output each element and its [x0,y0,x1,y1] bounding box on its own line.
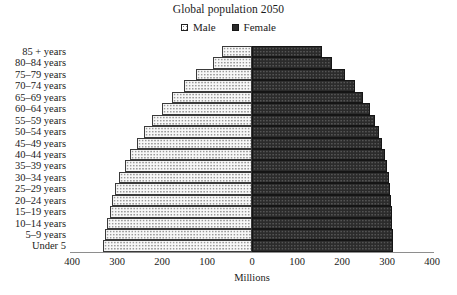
bar-female [252,183,390,194]
pyramid-row [72,206,432,217]
y-axis-label: 15–19 years [0,206,69,217]
bar-male [152,115,252,126]
bar-male [213,57,252,68]
bar-female [252,160,387,171]
bar-male [105,229,252,240]
y-axis-label: 85 + years [0,46,69,57]
y-axis-label: 5–9 years [0,229,69,240]
y-axis-label: 10–14 years [0,218,69,229]
pyramid-row [72,138,432,149]
y-axis-label: 70–74 years [0,80,69,91]
bar-male [137,138,252,149]
male-swatch-icon [181,24,188,31]
pyramid-row [72,126,432,137]
y-axis-label: 20–24 years [0,195,69,206]
y-axis-label: 30–34 years [0,172,69,183]
pyramid-row [72,115,432,126]
pyramid-row [72,149,432,160]
pyramid-row [72,103,432,114]
pyramid-row [72,195,432,206]
y-axis-label: 40–44 years [0,149,69,160]
x-axis-tick-labels: 4003002001000100200300400 [72,256,432,272]
bar-female [252,126,379,137]
pyramid-row [72,57,432,68]
x-axis-tick-label: 400 [424,256,440,267]
bar-male [130,149,252,160]
legend-label-male: Male [193,21,216,33]
chart-legend: Male Female [0,21,457,33]
legend-label-female: Female [244,21,276,33]
bar-female [252,229,393,240]
x-axis-tick-label: 100 [199,256,215,267]
y-axis-label: 80–84 years [0,57,69,68]
x-axis-tick-label: 300 [379,256,395,267]
bar-female [252,46,322,57]
pyramid-row [72,183,432,194]
x-axis-tick-label: 100 [289,256,305,267]
bar-female [252,80,355,91]
chart-title: Global population 2050 [0,3,457,15]
bar-male [112,195,252,206]
y-axis-label: 75–79 years [0,69,69,80]
pyramid-row [72,218,432,229]
y-axis-label: 45–49 years [0,138,69,149]
x-axis-tick-label: 300 [109,256,125,267]
bar-female [252,218,392,229]
population-pyramid-figure: Global population 2050 Male Female 85 + … [0,0,457,295]
pyramid-row [72,69,432,80]
bar-female [252,92,363,103]
x-axis-tick-label: 200 [334,256,350,267]
bar-female [252,149,385,160]
bar-female [252,172,389,183]
pyramid-row [72,92,432,103]
bar-male [196,69,252,80]
legend-entry-female: Female [232,21,276,33]
bar-male [125,160,252,171]
pyramid-row [72,229,432,240]
y-axis-label: 65–69 years [0,92,69,103]
x-axis-line [70,252,434,253]
y-axis-label: Under 5 [0,240,69,251]
y-axis-label: 25–29 years [0,183,69,194]
bar-male [107,218,252,229]
y-axis-label: 50–54 years [0,126,69,137]
bar-male [162,103,252,114]
bar-male [184,80,252,91]
x-axis-tick-label: 0 [249,256,254,267]
bar-male [110,206,252,217]
pyramid-row [72,46,432,57]
bar-male [119,172,252,183]
x-axis-title: Millions [72,272,432,283]
y-axis-category-labels: 85 + years80–84 years75–79 years70–74 ye… [0,46,69,252]
pyramid-row [72,160,432,171]
y-axis-label: 55–59 years [0,115,69,126]
y-axis-label: 60–64 years [0,103,69,114]
bar-female [252,69,345,80]
x-axis-tick-label: 200 [154,256,170,267]
pyramid-row [72,172,432,183]
pyramid-row [72,240,432,251]
x-axis-tick-label: 400 [64,256,80,267]
bar-female [252,138,382,149]
bar-female [252,57,332,68]
bar-male [172,92,252,103]
pyramid-row [72,80,432,91]
female-swatch-icon [232,24,239,31]
bar-female [252,115,375,126]
bar-female [252,103,370,114]
legend-entry-male: Male [181,21,216,33]
bar-female [252,240,393,251]
bar-female [252,195,391,206]
bar-male [222,46,252,57]
bar-male [115,183,252,194]
bar-female [252,206,392,217]
y-axis-label: 35–39 years [0,160,69,171]
bar-male [144,126,252,137]
plot-area [72,46,432,252]
bar-male [103,240,252,251]
